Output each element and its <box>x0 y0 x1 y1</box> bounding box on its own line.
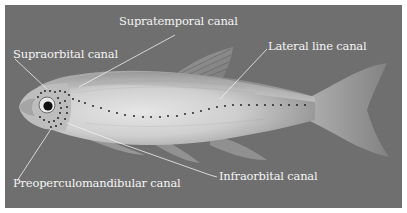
label-preoperculomandibular-canal: Preoperculomandibular canal <box>13 177 181 190</box>
caudal-fin <box>310 63 389 157</box>
label-lateral-line-canal: Lateral line canal <box>268 40 366 53</box>
label-supratemporal-canal: Supratemporal canal <box>119 15 238 28</box>
leader-supraorbital <box>15 59 47 89</box>
leader-preoperculomandibular <box>17 129 51 181</box>
fish-eye <box>39 97 55 113</box>
label-supraorbital-canal: Supraorbital canal <box>13 48 118 61</box>
label-infraorbital-canal: Infraorbital canal <box>219 170 317 183</box>
figure-frame: Supratemporal canal Supraorbital canal L… <box>5 5 402 208</box>
